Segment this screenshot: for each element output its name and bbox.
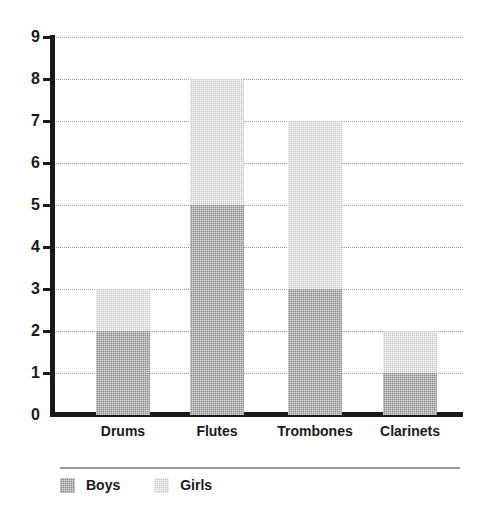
y-tick-7 — [43, 120, 51, 123]
y-tick-4 — [43, 246, 51, 249]
gridline-5 — [54, 205, 463, 206]
bar-segment-trombones-girls — [288, 121, 342, 289]
y-axis-label-0: 0 — [20, 407, 40, 423]
y-axis-label-1: 1 — [20, 365, 40, 381]
y-tick-2 — [43, 330, 51, 333]
bar-segment-drums-girls — [96, 289, 150, 331]
y-axis-label-7: 7 — [20, 113, 40, 129]
y-axis-label-2: 2 — [20, 323, 40, 339]
category-label-clarinets: Clarinets — [340, 423, 480, 439]
legend-separator — [60, 467, 460, 469]
legend-item-boys: Boys — [60, 477, 120, 493]
bar-segment-trombones-boys — [288, 289, 342, 415]
bar-segment-flutes-boys — [190, 205, 244, 415]
legend-label-girls: Girls — [180, 477, 212, 493]
y-tick-9 — [43, 36, 51, 39]
y-axis-label-5: 5 — [20, 197, 40, 213]
gridline-7 — [54, 121, 463, 122]
y-axis-label-6: 6 — [20, 155, 40, 171]
y-tick-1 — [43, 372, 51, 375]
bar-drums — [96, 289, 150, 415]
bar-flutes — [190, 79, 244, 415]
y-tick-3 — [43, 288, 51, 291]
y-axis-label-8: 8 — [20, 71, 40, 87]
stacked-bar-chart: 0123456789 DrumsFlutesTrombonesClarinets… — [0, 0, 492, 515]
legend-swatch-boys — [60, 478, 75, 493]
y-axis-labels: 0123456789 — [8, 0, 40, 515]
legend-swatch-girls — [154, 478, 169, 493]
y-axis-line — [50, 35, 55, 417]
y-axis-label-3: 3 — [20, 281, 40, 297]
bar-segment-clarinets-boys — [383, 373, 437, 415]
y-axis-label-4: 4 — [20, 239, 40, 255]
bar-trombones — [288, 121, 342, 415]
y-tick-6 — [43, 162, 51, 165]
legend-item-girls: Girls — [154, 477, 212, 493]
y-tick-5 — [43, 204, 51, 207]
bar-segment-drums-boys — [96, 331, 150, 415]
chart-legend: BoysGirls — [60, 477, 246, 493]
y-tick-8 — [43, 78, 51, 81]
y-axis-label-9: 9 — [20, 29, 40, 45]
gridline-6 — [54, 163, 463, 164]
bar-clarinets — [383, 331, 437, 415]
gridline-9 — [54, 37, 463, 38]
legend-label-boys: Boys — [86, 477, 120, 493]
bar-segment-clarinets-girls — [383, 331, 437, 373]
gridline-8 — [54, 79, 463, 80]
bar-segment-flutes-girls — [190, 79, 244, 205]
gridline-4 — [54, 247, 463, 248]
